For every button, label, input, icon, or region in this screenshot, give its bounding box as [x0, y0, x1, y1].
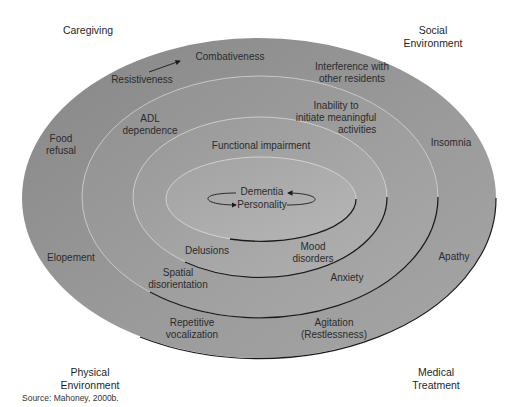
label-line: initiate meaningful	[296, 112, 377, 124]
label-inability-to-initiate: Inability to initiate meaningful activit…	[296, 100, 377, 136]
label-line: vocalization	[166, 329, 218, 341]
label-line: Food	[46, 133, 76, 145]
label-line: activities	[296, 124, 377, 136]
label-line: ADL	[122, 113, 177, 125]
corner-line: Social	[404, 24, 463, 37]
label-line: (Restlessness)	[301, 329, 367, 341]
corner-label-social-environment: Social Environment	[404, 24, 463, 49]
label-line: Repetitive	[166, 317, 218, 329]
source-caption: Source: Mahoney, 2000b.	[22, 393, 119, 403]
label-anxiety: Anxiety	[331, 272, 364, 284]
label-spatial-disorientation: Spatial disorientation	[148, 267, 207, 291]
label-line: other residents	[315, 73, 389, 85]
corner-label-medical-treatment: Medical Treatment	[412, 366, 459, 391]
label-delusions: Delusions	[185, 245, 229, 257]
label-repetitive-vocalization: Repetitive vocalization	[166, 317, 218, 341]
label-line: dependence	[122, 125, 177, 137]
label-insomnia: Insomnia	[431, 137, 472, 149]
corner-label-caregiving: Caregiving	[63, 24, 113, 37]
label-line: Interference with	[315, 61, 389, 73]
corner-line: Physical	[61, 366, 120, 379]
label-line: disorientation	[148, 279, 207, 291]
corner-line: Treatment	[412, 379, 459, 392]
corner-line: Environment	[404, 37, 463, 50]
label-combativeness: Combativeness	[196, 51, 265, 63]
label-food-refusal: Food refusal	[46, 133, 76, 157]
corner-line: Caregiving	[63, 24, 113, 37]
label-line: Inability to	[296, 100, 377, 112]
label-line: refusal	[46, 145, 76, 157]
label-elopement: Elopement	[47, 252, 95, 264]
center-label-dementia: Dementia	[241, 186, 284, 198]
label-line: Mood	[292, 241, 333, 253]
corner-label-physical-environment: Physical Environment	[61, 366, 120, 391]
label-functional-impairment: Functional impairment	[212, 140, 310, 152]
label-interference-with-residents: Interference with other residents	[315, 61, 389, 85]
label-agitation-restlessness: Agitation (Restlessness)	[301, 317, 367, 341]
corner-line: Environment	[61, 379, 120, 392]
label-adl-dependence: ADL dependence	[122, 113, 177, 137]
label-apathy: Apathy	[438, 251, 469, 263]
label-resistiveness: Resistiveness	[111, 74, 173, 86]
label-mood-disorders: Mood disorders	[292, 241, 333, 265]
label-line: Agitation	[301, 317, 367, 329]
center-label-personality: Personality	[237, 199, 286, 211]
label-line: Spatial	[148, 267, 207, 279]
label-line: disorders	[292, 253, 333, 265]
corner-line: Medical	[412, 366, 459, 379]
